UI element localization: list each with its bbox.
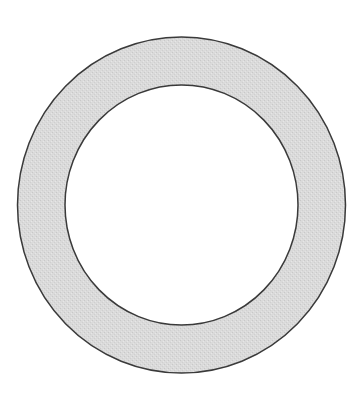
ring-band: [18, 37, 346, 373]
annulus-diagram: [0, 0, 360, 406]
inner-circle: [65, 85, 298, 325]
